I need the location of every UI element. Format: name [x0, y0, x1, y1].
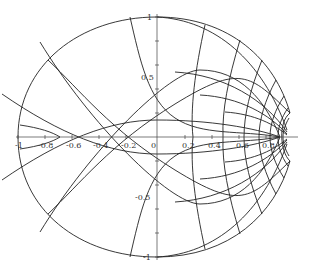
x-tick-label: 0: [151, 141, 156, 150]
x-tick-label: -0.2: [121, 141, 136, 150]
x-tick-label: -0.4: [93, 141, 108, 150]
x-tick-label: -0.6: [66, 141, 81, 150]
x-tick-label: 0.8: [262, 141, 275, 150]
y-tick-label: -1: [143, 253, 151, 262]
y-tick-label: -0.5: [135, 193, 150, 202]
axes: [16, 14, 298, 260]
x-tick-label: 0.4: [208, 141, 221, 150]
y-tick-label: 1: [147, 13, 152, 22]
x-tick-label: -0.8: [38, 141, 53, 150]
y-tick-label: 0.5: [141, 73, 154, 82]
x-tick-label: 0.2: [182, 141, 195, 150]
x-tick-label: -1: [15, 141, 23, 150]
x-tick-label: 0.6: [236, 141, 249, 150]
conformal-map-plot: -1 -0.8 -0.6 -0.4 -0.2 0 0.2 0.4 0.6 0.8…: [0, 0, 310, 269]
